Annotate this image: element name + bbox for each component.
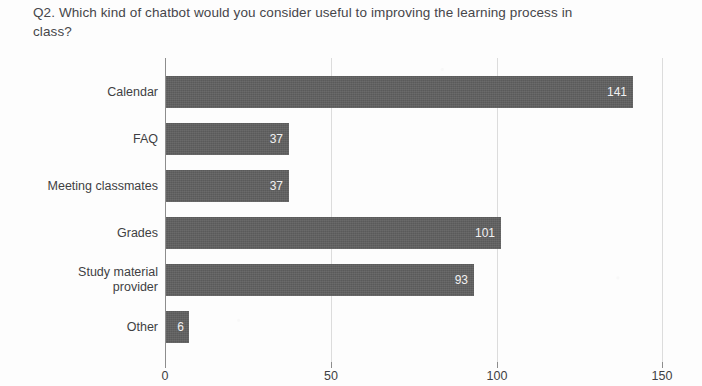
category-label-calendar: Calendar (0, 84, 158, 99)
bar-value-faq: 37 (270, 132, 283, 146)
bar-other[interactable]: 6 (166, 311, 189, 343)
bar-chart: Q2. Which kind of chatbot would you cons… (0, 0, 702, 386)
xtick-mark-100 (497, 362, 498, 368)
xtick-label-100: 100 (467, 369, 527, 383)
bar-calendar[interactable]: 141 (166, 76, 633, 108)
bar-value-meeting-classmates: 37 (270, 179, 283, 193)
xtick-mark-50 (331, 362, 332, 368)
category-label-line-1: Study material (78, 265, 158, 279)
category-label-other: Other (0, 319, 158, 334)
bar-value-other: 6 (177, 320, 184, 334)
bar-study-material-provider[interactable]: 93 (166, 264, 474, 296)
bar-row-grades: Grades 101 (0, 209, 702, 256)
xtick-mark-0 (165, 362, 166, 368)
category-label-meeting-classmates: Meeting classmates (0, 178, 158, 193)
chart-title: Q2. Which kind of chatbot would you cons… (33, 3, 593, 41)
bar-row-meeting-classmates: Meeting classmates 37 (0, 162, 702, 209)
xtick-label-50: 50 (301, 369, 361, 383)
bar-value-study-material-provider: 93 (455, 273, 468, 287)
chart-title-line-1: Q2. Which kind of chatbot would you cons… (33, 5, 506, 20)
category-label-faq: FAQ (0, 131, 158, 146)
bar-value-grades: 101 (475, 226, 495, 240)
xtick-label-0: 0 (135, 369, 195, 383)
xtick-label-150: 150 (632, 369, 692, 383)
category-label-line-2: provider (113, 280, 158, 294)
category-label-grades: Grades (0, 225, 158, 240)
bar-row-study-material-provider: Study materialprovider 93 (0, 256, 702, 303)
bar-row-other: Other 6 (0, 303, 702, 350)
category-label-study-material-provider: Study materialprovider (0, 265, 158, 295)
xtick-mark-150 (662, 362, 663, 368)
bar-faq[interactable]: 37 (166, 123, 289, 155)
bar-row-calendar: Calendar 141 (0, 68, 702, 115)
bar-row-faq: FAQ 37 (0, 115, 702, 162)
bar-grades[interactable]: 101 (166, 217, 501, 249)
bar-meeting-classmates[interactable]: 37 (166, 170, 289, 202)
bar-value-calendar: 141 (607, 85, 627, 99)
